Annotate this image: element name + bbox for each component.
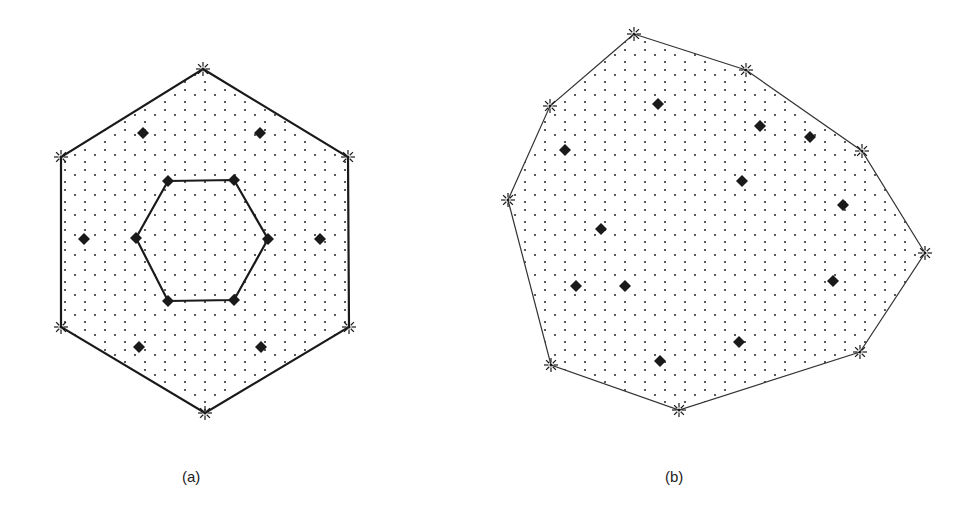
asterisk-vertex-icon bbox=[672, 403, 686, 417]
asterisk-vertex-icon bbox=[739, 63, 753, 77]
asterisk-vertex-icon bbox=[855, 144, 869, 158]
asterisk-vertex-icon bbox=[544, 358, 558, 372]
asterisk-vertex-icon bbox=[196, 62, 210, 76]
asterisk-vertex-icon bbox=[627, 27, 641, 41]
asterisk-vertex-icon bbox=[198, 406, 212, 420]
asterisk-vertex-icon bbox=[54, 150, 68, 164]
asterisk-vertex-icon bbox=[501, 193, 515, 207]
asterisk-vertex-icon bbox=[543, 99, 557, 113]
asterisk-vertex-icon bbox=[54, 320, 68, 334]
asterisk-vertex-icon bbox=[853, 345, 867, 359]
asterisk-vertex-icon bbox=[918, 246, 932, 260]
panel-label-b: (b) bbox=[665, 468, 683, 485]
figure-canvas bbox=[0, 0, 977, 525]
panel-label-a: (a) bbox=[182, 468, 200, 485]
asterisk-vertex-icon bbox=[341, 150, 355, 164]
asterisk-vertex-icon bbox=[342, 320, 356, 334]
